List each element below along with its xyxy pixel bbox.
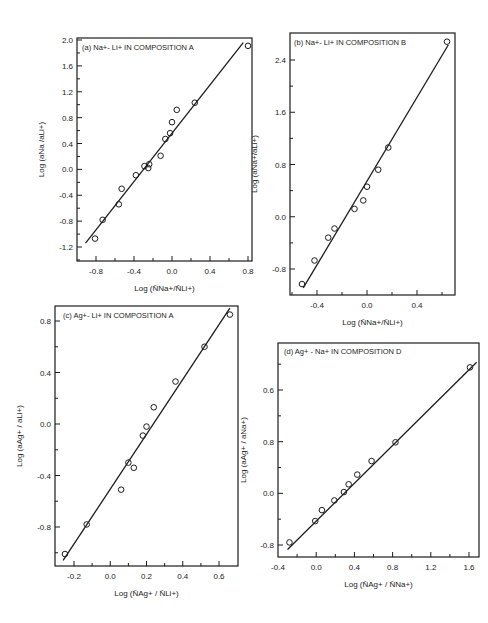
y-tick-label: 0.4 [62,140,74,149]
y-tick-label: 1.2 [62,88,74,97]
data-point-marker [140,433,146,439]
y-tick-label: -1.2 [59,243,73,252]
data-point-marker [151,404,157,410]
y-axis-label: Log (aAg+ / aLi+) [15,405,24,467]
y-tick-label: 0.8 [40,317,52,326]
y-tick-label: 2.4 [275,56,287,65]
data-point-marker [118,487,124,493]
data-point-marker [332,226,338,232]
data-point-marker [312,258,318,264]
y-tick-label: 0.4 [40,369,52,378]
x-tick-label: 0.6 [213,572,225,581]
plot-frame [77,38,252,261]
y-tick-label: -0.4 [37,472,51,481]
x-tick-label: -0.2 [67,572,81,581]
x-tick-label: 0.4 [411,301,423,310]
regression-line [86,43,244,244]
x-axis-label: Log (N̄Ag+ / N̄Na+) [344,580,413,589]
x-tick-label: 0.0 [361,301,373,310]
panel-title: (d) Ag+ - Na+ IN COMPOSITION D [284,347,402,356]
y-tick-label: 0.0 [263,489,275,498]
x-tick-label: 0.2 [141,572,153,581]
x-tick-label: -0.4 [310,301,324,310]
data-point-marker [227,312,233,318]
data-point-marker [169,119,175,125]
x-tick-label: 0.0 [311,563,323,572]
x-tick-label: 0.0 [166,267,178,276]
y-tick-label: -0.8 [272,265,286,274]
data-point-marker [174,107,180,113]
y-tick-label: 0.8 [62,114,74,123]
x-tick-label: -0.4 [271,563,285,572]
y-tick-label: 0.0 [62,165,74,174]
data-point-marker [131,465,137,471]
data-point-marker [352,206,358,212]
y-tick-label: 0.0 [275,213,287,222]
y-tick-label: -0.4 [59,191,73,200]
x-tick-label: 0.4 [177,572,189,581]
plot-frame [278,343,479,557]
y-tick-label: 0.8 [275,161,287,170]
y-tick-label: -0.8 [59,217,73,226]
data-point-marker [144,424,150,430]
data-point-marker [325,235,331,241]
x-tick-label: 0.4 [349,563,361,572]
y-axis-label: Log (aNa /aLi+) [37,121,46,177]
panel-title: (b) Na+- Li+ IN COMPOSITION B [294,38,406,47]
panel-title: (c) Ag+- Li+ IN COMPOSITION A [63,311,173,320]
y-tick-label: 0.0 [40,420,52,429]
data-point-marker [369,458,375,464]
data-point-marker [287,540,293,546]
x-tick-label: 1.2 [425,563,437,572]
y-tick-label: 1.6 [62,62,74,71]
x-tick-label: 0.8 [387,563,399,572]
y-tick-label: 2.0 [62,36,74,45]
plot-frame [55,306,238,566]
y-tick-label: 0.8 [263,438,275,447]
data-point-marker [299,281,305,287]
regression-line [303,45,448,288]
y-axis-label: Log (aAg+ / aNa+) [239,417,248,483]
y-axis-label: Log (aNa+/aLi+) [250,135,259,193]
x-tick-label: 0.8 [242,267,254,276]
x-tick-label: 1.6 [463,563,475,572]
x-axis-label: Log (N̄Na+/N̄Li+) [342,318,403,327]
data-point-marker [319,507,325,513]
data-point-marker [312,518,318,524]
x-axis-label: Log (N̄Na+/N̄Li+) [134,284,195,293]
data-point-marker [346,481,352,487]
chart-panel-b: -0.40.00.4-0.80.00.81.62.4(b) Na+- Li+ I… [250,33,455,327]
x-axis-label: Log (N̄Ag+ / N̄Li+) [114,589,179,598]
data-point-marker [354,472,360,478]
panel-title: (a) Na+- Li+ IN COMPOSITION A [82,43,194,52]
data-point-marker [173,379,179,385]
data-point-marker [360,198,366,204]
y-tick-label: -0.8 [260,541,274,550]
data-point-marker [245,43,251,49]
data-point-marker [444,39,450,45]
data-point-marker [158,153,164,159]
chart-panel-a: -0.8-0.40.00.40.8-1.2-0.8-0.40.00.40.81.… [37,36,254,293]
figure-canvas: -0.8-0.40.00.40.8-1.2-0.8-0.40.00.40.81.… [0,0,488,623]
x-tick-label: 0.4 [204,267,216,276]
data-point-marker [133,172,139,178]
x-tick-label: -0.8 [89,267,103,276]
y-tick-label: 1.6 [275,108,287,117]
x-tick-label: -0.4 [127,267,141,276]
data-point-marker [375,167,381,173]
data-point-marker [92,236,98,242]
chart-panel-c: -0.20.00.20.40.6-0.8-0.40.00.40.8(c) Ag+… [15,306,238,598]
chart-panel-d: -0.40.00.40.81.21.6-0.80.00.80.6(d) Ag+ … [239,343,479,589]
y-tick-label: -0.8 [37,523,51,532]
plot-frame [290,33,455,295]
data-point-marker [364,184,370,190]
y-tick-label: 0.6 [263,386,275,395]
regression-line [288,362,477,549]
x-tick-label: 0.0 [105,572,117,581]
data-point-marker [119,186,125,192]
